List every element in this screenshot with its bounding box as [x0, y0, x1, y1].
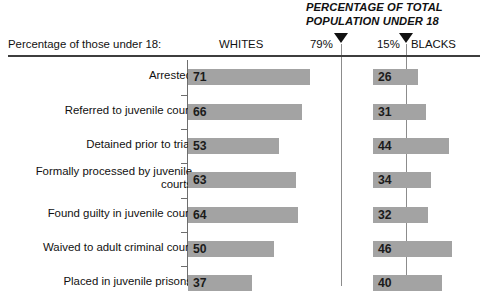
- column-header-blacks: BLACKS: [411, 38, 456, 50]
- row-label: Found guilty in juvenile court: [12, 207, 192, 220]
- triangle-marker-blacks-icon: [399, 33, 413, 43]
- row-label: Arrested: [12, 69, 192, 82]
- bar-value-blacks: 46: [375, 241, 392, 257]
- bar-value-blacks: 34: [375, 172, 392, 188]
- bar-value-whites: 53: [190, 138, 207, 154]
- marker-label-whites-percent: 79%: [310, 38, 333, 50]
- chart-super-title: PERCENTAGE OF TOTAL POPULATION UNDER 18: [306, 1, 486, 28]
- triangle-marker-whites-icon: [334, 33, 348, 43]
- bar-value-whites: 64: [190, 207, 207, 223]
- axis-tick: [181, 163, 187, 164]
- row-label: Referred to juvenile court: [12, 104, 192, 117]
- axis-tick: [181, 95, 187, 96]
- bar-value-blacks: 26: [375, 69, 392, 85]
- row-label: Formally processed by juvenile courts: [12, 165, 192, 191]
- bar-value-blacks: 44: [375, 138, 392, 154]
- marker-label-blacks-percent: 15%: [377, 38, 400, 50]
- bar-value-blacks: 40: [375, 275, 392, 291]
- bar-value-whites: 37: [190, 275, 207, 291]
- bar-value-whites: 66: [190, 104, 207, 120]
- row-label: Placed in juvenile prisons: [12, 275, 192, 288]
- bar-value-blacks: 32: [375, 207, 392, 223]
- axis-caption: Percentage of those under 18:: [8, 38, 161, 50]
- bar-value-whites: 71: [190, 69, 207, 85]
- row-label: Waived to adult criminal court: [12, 241, 192, 254]
- axis-tick: [181, 232, 187, 233]
- bar-value-whites: 50: [190, 241, 207, 257]
- axis-tick: [181, 129, 187, 130]
- header-divider: [8, 55, 480, 57]
- axis-tick: [181, 198, 187, 199]
- bar-value-whites: 63: [190, 172, 207, 188]
- bar-value-blacks: 31: [375, 104, 392, 120]
- column-header-whites: WHITES: [219, 38, 263, 50]
- row-label: Detained prior to trial: [12, 138, 192, 151]
- guide-line-whites: [341, 44, 342, 286]
- axis-tick: [181, 266, 187, 267]
